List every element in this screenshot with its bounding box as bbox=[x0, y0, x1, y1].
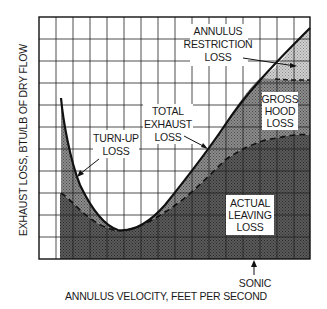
gross-hood-label: GROSS HOOD LOSS bbox=[262, 92, 299, 130]
gross-hood-line1: GROSS bbox=[262, 93, 299, 105]
actual-leaving-line1: ACTUAL bbox=[230, 197, 271, 209]
annulus-restriction-line3: LOSS bbox=[204, 51, 231, 63]
x-axis-label: ANNULUS VELOCITY, FEET PER SECOND bbox=[65, 290, 268, 302]
turn-up-line1: TURN-UP bbox=[93, 132, 139, 144]
actual-leaving-label: ACTUAL LEAVING LOSS bbox=[226, 195, 274, 235]
annulus-restriction-line2: RESTRICTION bbox=[184, 38, 253, 50]
gross-hood-line3: LOSS bbox=[266, 117, 293, 129]
sonic-arrowhead-icon bbox=[251, 260, 257, 267]
actual-leaving-line3: LOSS bbox=[236, 221, 263, 233]
gross-hood-line2: HOOD bbox=[265, 105, 296, 117]
sonic-marker: SONIC bbox=[239, 260, 272, 289]
turn-up-line2: LOSS bbox=[102, 145, 129, 157]
actual-leaving-line2: LEAVING bbox=[228, 209, 271, 221]
total-exhaust-line2: EXHAUST bbox=[144, 118, 193, 130]
total-exhaust-line3: LOSS bbox=[154, 131, 181, 143]
sonic-label: SONIC bbox=[239, 277, 272, 289]
y-axis-label: EXHAUST LOSS, BTU/LB OF DRY FLOW bbox=[17, 44, 29, 236]
annulus-restriction-line1: ANNULUS bbox=[194, 25, 243, 37]
total-exhaust-line1: TOTAL bbox=[152, 105, 184, 117]
exhaust-loss-chart: ANNULUS RESTRICTION LOSS GROSS HOOD LOSS… bbox=[0, 0, 327, 309]
